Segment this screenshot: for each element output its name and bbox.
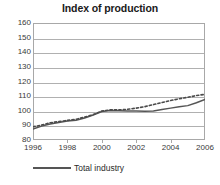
legend-swatch-total-industry xyxy=(33,167,71,169)
y-tick-label: 130 xyxy=(3,63,31,71)
y-tick-label: 100 xyxy=(3,107,31,115)
x-tick-mark xyxy=(171,140,172,143)
y-tick-label: 110 xyxy=(3,92,31,100)
y-tick-label: 150 xyxy=(3,34,31,42)
x-tick-label: 2000 xyxy=(85,143,119,152)
y-axis-labels: 8090100110120130140150160 xyxy=(0,0,31,185)
x-tick-label: 2004 xyxy=(154,143,188,152)
x-tick-mark xyxy=(102,140,103,143)
chart-container: Index of production 80901001101201301401… xyxy=(0,0,220,185)
series-line-secondary xyxy=(33,94,205,126)
series-lines xyxy=(33,23,205,140)
x-tick-label: 1996 xyxy=(16,143,50,152)
legend-label-total-industry: Total industry xyxy=(74,163,124,173)
x-tick-label: 1998 xyxy=(50,143,84,152)
legend: Total industry xyxy=(33,163,124,173)
y-tick-label: 90 xyxy=(3,121,31,129)
y-tick-label: 140 xyxy=(3,48,31,56)
x-tick-label: 2006 xyxy=(188,143,220,152)
series-line-total-industry xyxy=(33,99,205,129)
x-tick-mark xyxy=(136,140,137,143)
y-tick-label: 120 xyxy=(3,78,31,86)
x-tick-mark xyxy=(67,140,68,143)
y-tick-label: 160 xyxy=(3,19,31,27)
x-tick-label: 2002 xyxy=(119,143,153,152)
chart-title: Index of production xyxy=(0,2,220,14)
